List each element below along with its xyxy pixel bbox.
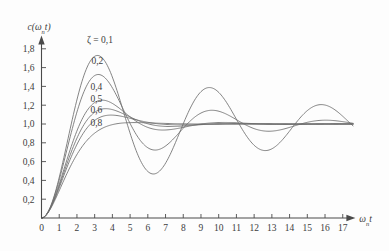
curve-zeta-0-6	[42, 115, 354, 218]
curve-zeta-0-8	[42, 123, 354, 218]
y-axis-arrowhead	[38, 36, 44, 45]
x-tick-label-6: 6	[145, 223, 150, 233]
y-tick-label-0,2: 0,2	[23, 195, 35, 205]
curve-label-0-5: 0,5	[90, 94, 102, 104]
figure-container: 01234567891011121314151617 0,20,40,60,81…	[0, 0, 389, 251]
curve-annotations: ζ = 0,10,20,40,50,60,8	[87, 35, 113, 128]
x-tick-label-8: 8	[181, 223, 186, 233]
curve-label-0-8: 0,8	[90, 118, 102, 128]
x-tick-label-14: 14	[285, 223, 295, 233]
x-tick-label-11: 11	[232, 223, 241, 233]
x-tick-label-17: 17	[338, 223, 348, 233]
x-tick-labels: 01234567891011121314151617	[39, 223, 348, 233]
x-tick-label-12: 12	[249, 223, 259, 233]
x-tick-label-7: 7	[163, 223, 168, 233]
x-tick-label-0: 0	[39, 223, 44, 233]
y-tick-label-1,6: 1,6	[23, 63, 35, 73]
y-axis-ticks	[42, 49, 47, 199]
y-tick-label-0,8: 0,8	[23, 138, 35, 148]
y-tick-label-1,4: 1,4	[23, 82, 35, 92]
y-axis-title: c(ωnt)	[28, 22, 51, 35]
curve-label-0-2: 0,2	[91, 56, 103, 66]
curve-label-0-4: 0,4	[90, 82, 102, 92]
x-tick-label-3: 3	[92, 223, 97, 233]
x-axis-title: ωnt	[359, 214, 372, 227]
curve-zeta-0-4	[42, 100, 354, 218]
curve-label-0-6: 0,6	[90, 105, 102, 115]
y-tick-label-1,8: 1,8	[23, 44, 35, 54]
x-tick-label-13: 13	[267, 223, 277, 233]
x-tick-label-2: 2	[75, 223, 80, 233]
x-tick-label-5: 5	[128, 223, 133, 233]
y-tick-label-1,0: 1,0	[23, 119, 35, 129]
x-tick-label-16: 16	[320, 223, 330, 233]
curve-zeta-0-1	[42, 55, 354, 218]
x-tick-label-9: 9	[199, 223, 204, 233]
x-tick-label-4: 4	[110, 223, 115, 233]
curve-zeta-0-5	[42, 109, 354, 218]
x-axis-ticks	[59, 214, 343, 218]
curve-label-0-1: ζ = 0,1	[87, 35, 113, 46]
x-axis-arrowhead	[346, 215, 355, 221]
y-tick-label-0,4: 0,4	[23, 176, 35, 186]
x-tick-label-15: 15	[303, 223, 313, 233]
step-response-chart: 01234567891011121314151617 0,20,40,60,81…	[0, 0, 389, 251]
y-tick-labels: 0,20,40,60,81,01,21,41,61,8	[23, 44, 35, 204]
x-tick-label-1: 1	[57, 223, 62, 233]
y-tick-label-1,2: 1,2	[23, 101, 35, 111]
y-tick-label-0,6: 0,6	[23, 157, 35, 167]
response-curves	[42, 55, 354, 218]
x-tick-label-10: 10	[214, 223, 224, 233]
